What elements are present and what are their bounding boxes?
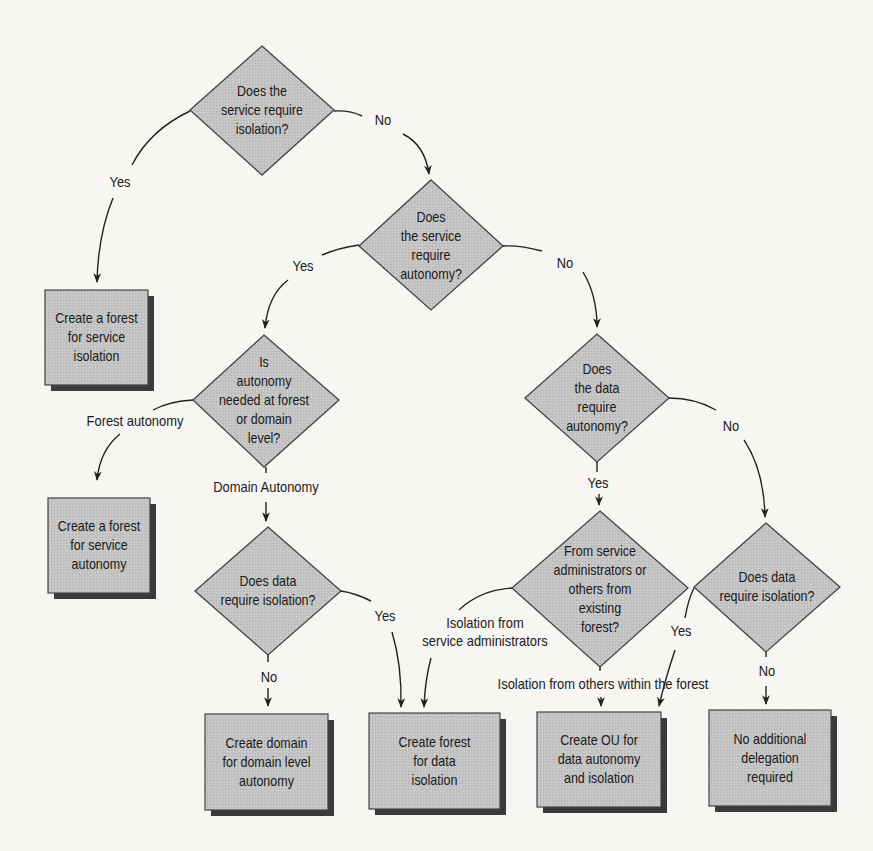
edge-label-d2-yes: Yes [286, 257, 320, 275]
decision-service-autonomy: Does the service require autonomy? [378, 200, 485, 292]
edge-label-d6-service-admins: Isolation from service administrators [408, 614, 563, 650]
edge-d1-no-upper [334, 111, 362, 116]
outcome-create-forest-service-isolation: Create a forest for service isolation [52, 290, 141, 385]
decision-data-isolation-left: Does data require isolation? [210, 560, 327, 622]
edge-d3-forest-upper [153, 400, 193, 410]
edge-label-d3-forest: Forest autonomy [79, 412, 191, 430]
edge-label-d1-no: No [370, 111, 396, 129]
edge-d5-no-upper [669, 398, 716, 410]
outcome-create-domain: Create domain for domain level autonomy [214, 714, 320, 810]
outcome-create-forest-data-isolation: Create forest for data isolation [378, 713, 491, 809]
edge-d1-yes-upper [132, 111, 190, 165]
edge-d4-yes-lower [392, 632, 401, 707]
outcome-create-ou: Create OU for data autonomy and isolatio… [546, 712, 653, 807]
edge-d6-admins-lower [424, 658, 431, 707]
edge-d2-yes-upper [322, 245, 359, 255]
edge-label-d6-others: Isolation from others within the forest [478, 675, 727, 693]
edge-d6-admins-upper [459, 588, 512, 610]
edge-label-d4-yes: Yes [370, 607, 399, 625]
edge-d4-yes-upper [341, 591, 371, 601]
edge-label-d5-yes: Yes [581, 474, 615, 492]
edge-d3-forest-lower [97, 434, 120, 480]
edge-d2-yes-lower [265, 280, 288, 328]
edge-d1-no-lower [403, 134, 429, 174]
edge-label-d3-domain: Domain Autonomy [208, 478, 325, 496]
outcome-create-forest-service-autonomy: Create a forest for service autonomy [55, 498, 143, 593]
decision-autonomy-level: Is autonomy needed at forest or domain l… [206, 350, 323, 450]
edge-d1-yes-lower [97, 198, 113, 282]
edge-label-d1-yes: Yes [103, 173, 137, 191]
decision-service-isolation: Does the service require isolation? [209, 66, 316, 154]
edge-d2-no-lower [583, 272, 597, 327]
edge-d2-no-upper [503, 246, 542, 251]
edge-label-d7-no: No [754, 662, 780, 680]
decision-data-isolation-right: Does data require isolation? [709, 556, 824, 618]
edge-label-d2-no: No [552, 254, 578, 272]
edge-label-d4-no: No [256, 668, 282, 686]
edge-label-d5-no: No [718, 417, 744, 435]
edge-d7-yes-upper [685, 588, 694, 618]
decision-data-autonomy: Does the data require autonomy? [544, 352, 651, 444]
edge-label-d7-yes: Yes [666, 622, 695, 640]
edge-d5-no-lower [744, 440, 765, 517]
outcome-no-delegation: No additional delegation required [718, 710, 823, 806]
flowchart-canvas: Does the service require isolation? Does… [0, 0, 873, 851]
